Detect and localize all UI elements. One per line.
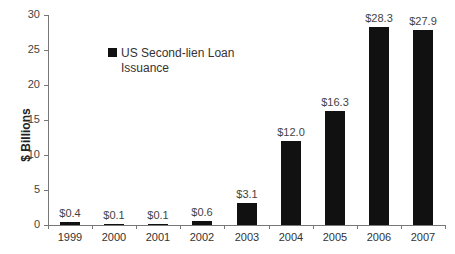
y-tick <box>44 50 48 51</box>
y-tick-label: 20 <box>10 78 40 90</box>
bar-2004 <box>281 141 301 225</box>
x-tick <box>224 225 225 229</box>
x-tick-label: 2005 <box>313 231 357 243</box>
bar-value-label: $0.4 <box>48 207 92 219</box>
bar-2005 <box>325 111 345 225</box>
bar-value-label: $0.1 <box>92 209 136 221</box>
legend-label: US Second-lien Loan Issuance <box>121 46 261 76</box>
y-tick-label: 5 <box>10 183 40 195</box>
y-tick <box>44 15 48 16</box>
x-tick-label: 2001 <box>136 231 180 243</box>
bar-1999 <box>60 222 80 225</box>
y-tick <box>44 155 48 156</box>
x-tick <box>92 225 93 229</box>
bar-value-label: $0.1 <box>136 209 180 221</box>
bar-2000 <box>104 224 124 225</box>
y-tick <box>44 85 48 86</box>
y-tick <box>44 190 48 191</box>
x-tick-label: 2006 <box>357 231 401 243</box>
bar-value-label: $3.1 <box>225 188 269 200</box>
y-tick-label: 0 <box>10 218 40 230</box>
x-tick <box>357 225 358 229</box>
y-tick-label: 30 <box>10 8 40 20</box>
x-tick <box>269 225 270 229</box>
bar-value-label: $0.6 <box>180 206 224 218</box>
y-tick <box>44 120 48 121</box>
y-tick-label: 10 <box>10 148 40 160</box>
x-tick <box>180 225 181 229</box>
y-axis-label: $ Billions <box>19 95 33 175</box>
bar-value-label: $16.3 <box>313 96 357 108</box>
legend-swatch <box>108 48 117 57</box>
bar-chart: $ Billions 051015202530 1999200020012002… <box>0 0 455 254</box>
bar-2006 <box>369 27 389 225</box>
x-tick-label: 2003 <box>225 231 269 243</box>
x-tick-label: 1999 <box>48 231 92 243</box>
bar-value-label: $28.3 <box>357 12 401 24</box>
x-axis-line <box>48 225 445 226</box>
y-tick-label: 25 <box>10 43 40 55</box>
bar-value-label: $12.0 <box>269 126 313 138</box>
x-tick <box>136 225 137 229</box>
x-tick-label: 2004 <box>269 231 313 243</box>
bar-2001 <box>148 224 168 225</box>
bar-2007 <box>413 30 433 225</box>
x-tick <box>445 225 446 229</box>
y-tick-label: 15 <box>10 113 40 125</box>
x-tick-label: 2002 <box>180 231 224 243</box>
x-tick-label: 2000 <box>92 231 136 243</box>
x-tick <box>48 225 49 229</box>
x-tick <box>313 225 314 229</box>
bar-2002 <box>192 221 212 225</box>
x-tick-label: 2007 <box>401 231 445 243</box>
x-tick <box>401 225 402 229</box>
bar-value-label: $27.9 <box>401 15 445 27</box>
bar-2003 <box>237 203 257 225</box>
y-axis-line <box>48 15 49 226</box>
